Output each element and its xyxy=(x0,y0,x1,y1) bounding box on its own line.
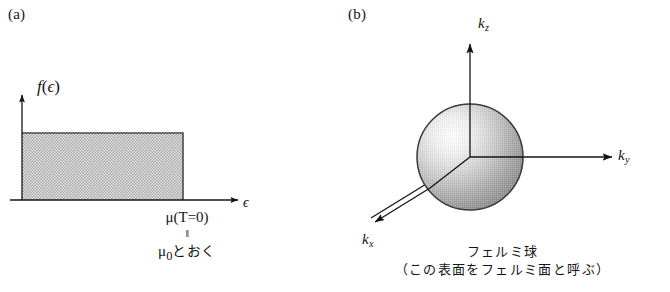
kz-axis-label: kz xyxy=(478,16,489,33)
panel-b-caption: フェルミ球 （この表面をフェルミ面と呼ぶ） xyxy=(335,243,670,278)
caption-line-2: （この表面をフェルミ面と呼ぶ） xyxy=(335,261,670,279)
epsilon-axis-label: ϵ xyxy=(243,196,249,210)
ky-axis-label: ky xyxy=(618,148,629,165)
mu-zero-definition: μ0とおく xyxy=(112,243,262,264)
mu-T-zero-expression: μ(T=0) xyxy=(112,210,262,226)
chemical-potential-annotation: μ(T=0) ‖ μ0とおく xyxy=(112,210,262,263)
panel-b: (b) xyxy=(335,0,670,292)
panel-a: (a) f(ϵ) ϵ xyxy=(0,0,335,292)
f-epsilon-axis-label: f(ϵ) xyxy=(37,78,60,95)
caption-line-1: フェルミ球 xyxy=(335,243,670,261)
figure-root: (a) f(ϵ) ϵ xyxy=(0,0,670,292)
equivalence-bar: ‖ xyxy=(112,228,262,240)
kx-axis xyxy=(375,188,430,222)
step-region xyxy=(22,133,183,200)
